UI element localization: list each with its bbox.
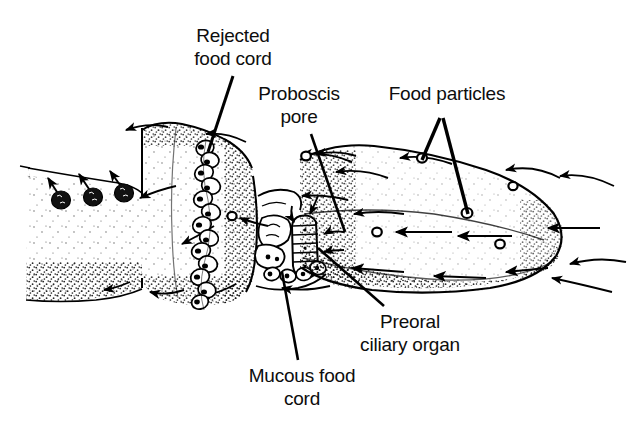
label-rejected-food-cord: Rejected food cord: [168, 24, 298, 70]
trunk-body: [20, 160, 160, 310]
label-food-particles: Food particles: [368, 82, 526, 105]
label-proboscis-pore: Proboscis pore: [244, 82, 354, 128]
leader-mucous-food-cord: [282, 272, 298, 360]
label-mucous-food-cord: Mucous food cord: [222, 364, 382, 410]
leader-food-particles-a: [422, 118, 440, 160]
label-preoral-ciliary-organ: Preoral ciliary organ: [330, 310, 490, 356]
